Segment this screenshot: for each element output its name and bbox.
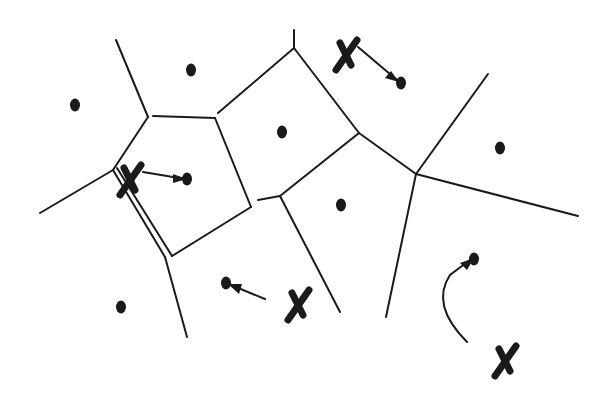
movement-arrows <box>143 47 474 342</box>
voronoi-edge <box>117 168 172 256</box>
arrow-icon <box>358 47 399 82</box>
site-point <box>221 277 231 290</box>
arrow-icon <box>228 284 265 299</box>
voronoi-edge <box>416 174 578 216</box>
voronoi-edge <box>386 174 416 317</box>
x-mark-icon <box>336 40 357 70</box>
voronoi-edge <box>218 48 294 113</box>
voronoi-edge <box>153 116 215 118</box>
voronoi-edge <box>165 257 187 337</box>
voronoi-edge <box>258 196 280 200</box>
voronoi-edge <box>416 74 488 174</box>
site-point <box>186 64 196 77</box>
site-point <box>116 301 126 314</box>
x-marks <box>120 40 516 376</box>
x-mark-icon <box>495 346 516 376</box>
arrow-icon <box>143 172 187 183</box>
x-mark-icon <box>288 290 309 320</box>
voronoi-edge <box>172 207 251 256</box>
site-point <box>336 199 346 212</box>
site-point <box>70 99 80 112</box>
voronoi-edge <box>359 133 416 174</box>
voronoi-edge <box>113 170 165 257</box>
voronoi-diagram <box>0 0 602 397</box>
site-point <box>277 126 287 139</box>
site-point <box>495 142 505 155</box>
voronoi-edge <box>280 133 359 196</box>
voronoi-edge <box>215 118 251 207</box>
voronoi-edge <box>116 40 148 117</box>
arrow-icon <box>443 258 474 342</box>
site-point <box>396 77 406 90</box>
voronoi-edge <box>40 170 113 213</box>
